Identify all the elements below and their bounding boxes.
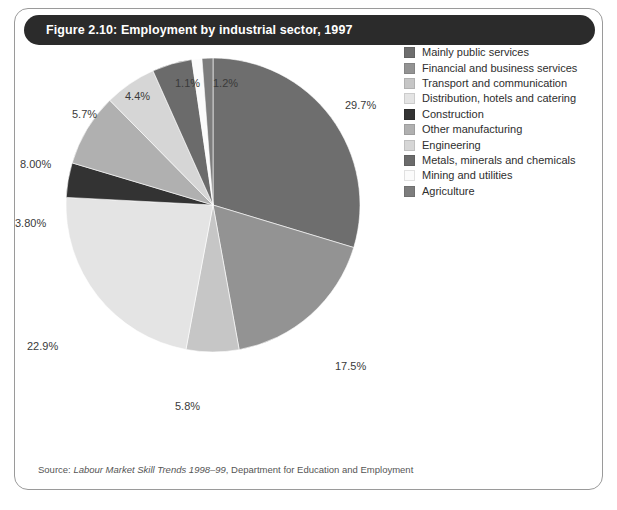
pie-slice-label: 3.80% <box>15 217 46 229</box>
legend-item[interactable]: Other manufacturing <box>404 122 600 137</box>
source-rest: , Department for Education and Employmen… <box>226 464 413 475</box>
legend-item[interactable]: Distribution, hotels and catering <box>404 91 600 106</box>
pie-slice-label: 8.00% <box>20 158 51 170</box>
pie-slice-label: 29.7% <box>345 99 376 111</box>
pie-slice-label: 22.9% <box>27 340 58 352</box>
legend-swatch-icon <box>404 93 415 104</box>
figure-title-bar: Figure 2.10: Employment by industrial se… <box>24 15 595 45</box>
pie-slice-label: 4.4% <box>125 90 150 102</box>
legend-item-label: Other manufacturing <box>422 124 522 135</box>
legend-item[interactable]: Financial and business services <box>404 60 600 75</box>
legend-item-label: Mainly public services <box>422 47 529 58</box>
figure-card: Figure 2.10: Employment by industrial se… <box>14 8 603 490</box>
pie-chart <box>63 55 363 355</box>
source-note: Source: Labour Market Skill Trends 1998–… <box>38 464 413 475</box>
legend-swatch-icon <box>404 109 415 120</box>
legend-swatch-icon <box>404 124 415 135</box>
legend-item[interactable]: Mining and utilities <box>404 168 600 183</box>
legend-item[interactable]: Mainly public services <box>404 45 600 60</box>
legend-swatch-icon <box>404 63 415 74</box>
legend-item[interactable]: Transport and communication <box>404 76 600 91</box>
legend-swatch-icon <box>404 155 415 166</box>
legend-item-label: Financial and business services <box>422 63 577 74</box>
legend-item-label: Mining and utilities <box>422 170 513 181</box>
page-title: Figure 2.10: Employment by industrial se… <box>46 23 353 37</box>
legend-swatch-icon <box>404 78 415 89</box>
legend-item[interactable]: Agriculture <box>404 184 600 199</box>
legend-item[interactable]: Construction <box>404 107 600 122</box>
legend-item-label: Distribution, hotels and catering <box>422 93 576 104</box>
chart-legend: Mainly public servicesFinancial and busi… <box>404 45 600 199</box>
pie-slice-label: 1.1% <box>175 77 200 89</box>
source-publication: Labour Market Skill Trends 1998–99 <box>73 464 225 475</box>
pie-slice-label: 5.8% <box>175 400 200 412</box>
pie-slice-label: 17.5% <box>335 360 366 372</box>
legend-item[interactable]: Metals, minerals and chemicals <box>404 153 600 168</box>
legend-swatch-icon <box>404 47 415 58</box>
legend-swatch-icon <box>404 140 415 151</box>
legend-item-label: Construction <box>422 109 484 120</box>
legend-swatch-icon <box>404 186 415 197</box>
legend-item-label: Metals, minerals and chemicals <box>422 155 575 166</box>
source-prefix: Source: <box>38 464 71 475</box>
pie-slice-label: 5.7% <box>72 108 97 120</box>
legend-swatch-icon <box>404 170 415 181</box>
legend-item[interactable]: Engineering <box>404 137 600 152</box>
pie-slice-label: 1.2% <box>213 77 238 89</box>
legend-item-label: Engineering <box>422 140 481 151</box>
legend-item-label: Agriculture <box>422 186 475 197</box>
legend-item-label: Transport and communication <box>422 78 567 89</box>
